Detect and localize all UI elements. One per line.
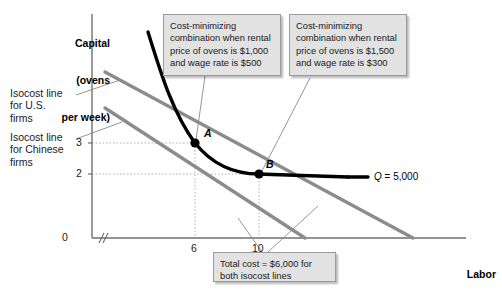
data-point-a: [190, 138, 199, 147]
x-axis-title: Labor (workers per week): [404, 243, 496, 294]
label-isocost-us: Isocost line for U.S. firms: [10, 87, 63, 124]
point-label-a: A: [204, 127, 212, 139]
x-tick-origin: 0: [62, 231, 68, 243]
data-point-b: [254, 169, 263, 178]
callout-left: Cost-minimizing combination when rental …: [163, 14, 281, 76]
callout-bottom: Total cost = $6,000 for both isocost lin…: [213, 252, 336, 282]
callout-leader-lines: [76, 76, 318, 252]
x-axis-title-line1: Labor: [404, 268, 496, 280]
label-isocost-chinese: Isocost line for Chinese firms: [10, 131, 64, 168]
isoquant-symbol: Q: [374, 171, 382, 182]
figure-container: Capital (ovens per week) Labor (workers …: [0, 0, 502, 294]
callout-right: Cost-minimizing combination when rental …: [289, 14, 407, 76]
y-axis-title-line1: Capital: [28, 37, 110, 49]
point-label-b: B: [266, 158, 274, 170]
x-tick-6: 6: [191, 242, 197, 254]
isoquant-value: = 5,000: [382, 171, 418, 182]
y-axis-title: Capital (ovens per week): [28, 12, 110, 148]
y-tick-3: 3: [76, 136, 82, 148]
y-tick-2: 2: [76, 167, 82, 179]
isoquant-label: Q = 5,000: [374, 171, 418, 183]
y-axis-title-line2: (ovens: [28, 74, 110, 86]
